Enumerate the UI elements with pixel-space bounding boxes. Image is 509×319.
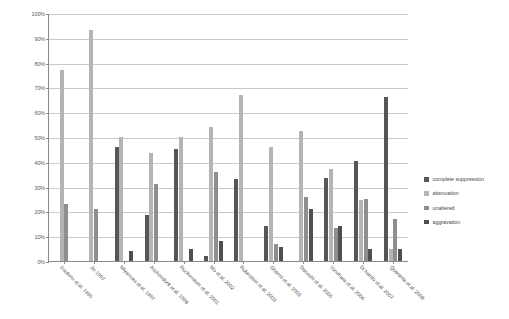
x-axis-labels: Soutiere et al. 1995Jin 1997Miyamoto et …	[48, 263, 408, 319]
legend-swatch-icon	[424, 177, 429, 182]
y-axis-tick-label: 0%	[37, 259, 45, 265]
bar	[239, 95, 243, 261]
bar-group	[109, 14, 139, 261]
x-axis-label-cell: Daneshi et al. 2005	[288, 263, 318, 319]
bar-group	[258, 14, 288, 261]
bar	[204, 256, 208, 261]
legend-label: attenuation	[433, 190, 459, 197]
x-axis-label-cell: Rubinstein et al. 2003	[228, 263, 258, 319]
legend-item[interactable]: complete suppression	[424, 176, 506, 183]
bar	[389, 249, 393, 261]
bar-group	[139, 14, 169, 261]
x-axis-label: Jin 1997	[89, 264, 107, 282]
bar	[174, 149, 178, 261]
y-axis-tick-label: 20%	[35, 209, 46, 215]
plot-area: 0%10%20%30%40%50%60%70%80%90%100%	[48, 14, 408, 262]
bar	[354, 161, 358, 261]
bar	[154, 184, 158, 261]
bar	[209, 127, 213, 261]
bar	[368, 249, 372, 261]
bar	[384, 97, 388, 261]
bar-group	[378, 14, 408, 261]
x-axis-label-cell: Yonehara et al. 2006	[318, 263, 348, 319]
bar	[64, 204, 68, 261]
legend-item[interactable]: unaltered	[424, 205, 506, 212]
bar-chart: 0%10%20%30%40%50%60%70%80%90%100% Soutie…	[0, 0, 509, 319]
bar-group	[318, 14, 348, 261]
bar	[149, 153, 153, 261]
bar	[89, 30, 93, 261]
bar-group	[288, 14, 318, 261]
legend-swatch-icon	[424, 206, 429, 211]
legend-item[interactable]: aggravation	[424, 219, 506, 226]
x-axis-label-cell: Aschendorff et al. 1998	[138, 263, 168, 319]
y-axis-tick-label: 50%	[35, 135, 46, 141]
bar-group	[199, 14, 229, 261]
y-axis-tick-label: 10%	[35, 234, 46, 240]
legend-item[interactable]: attenuation	[424, 190, 506, 197]
y-axis-tick-label: 40%	[35, 160, 46, 166]
x-axis-label-cell: Ruckenstein et al. 2001	[168, 263, 198, 319]
bar-group	[229, 14, 259, 261]
y-axis-tick-label: 30%	[35, 185, 46, 191]
x-axis-label: Quaranta et al. 2008	[389, 264, 426, 301]
legend-swatch-icon	[424, 220, 429, 225]
bar	[309, 209, 313, 261]
legend-label: aggravation	[433, 219, 461, 226]
x-axis-label-cell: Gharmi et al. 2003	[258, 263, 288, 319]
y-axis-tick-label: 100%	[32, 11, 45, 17]
bar	[304, 197, 308, 261]
legend-label: complete suppression	[433, 176, 484, 183]
bar	[94, 209, 98, 261]
chart-legend: complete suppressionattenuationunaltered…	[424, 176, 506, 233]
bar	[329, 169, 333, 261]
bar	[264, 226, 268, 261]
x-axis-label-cell: Quaranta et al. 2008	[378, 263, 408, 319]
bar	[393, 219, 397, 261]
x-axis-label-cell: Mo et al. 2002	[198, 263, 228, 319]
bar	[334, 228, 338, 261]
bar	[145, 215, 149, 261]
bar	[269, 147, 273, 261]
y-axis-tick-label: 90%	[35, 36, 46, 42]
bar	[398, 249, 402, 261]
legend-swatch-icon	[424, 191, 429, 196]
bar	[115, 147, 119, 261]
bar	[214, 172, 218, 261]
bar	[279, 247, 283, 261]
x-axis-label-cell: Miyamoto et al. 1997	[108, 263, 138, 319]
bar	[274, 244, 278, 261]
x-axis-label-cell: Jin 1997	[78, 263, 108, 319]
bar-group	[169, 14, 199, 261]
bar-groups	[49, 14, 408, 261]
bar	[338, 226, 342, 261]
bar	[189, 249, 193, 261]
y-axis-tick-label: 60%	[35, 110, 46, 116]
y-axis-tick-label: 70%	[35, 85, 46, 91]
bar	[359, 200, 363, 261]
bar	[219, 241, 223, 261]
y-axis-tick-label: 80%	[35, 61, 46, 67]
legend-label: unaltered	[433, 205, 455, 212]
bar	[119, 137, 123, 261]
bar-group	[348, 14, 378, 261]
bar	[129, 251, 133, 261]
bar	[60, 70, 64, 261]
bar-group	[79, 14, 109, 261]
bar	[234, 179, 238, 261]
bar	[364, 199, 368, 261]
bar	[179, 137, 183, 261]
bar	[299, 131, 303, 261]
bar-group	[49, 14, 79, 261]
x-axis-label-cell: Di Nardo et al. 2007	[348, 263, 378, 319]
bar	[324, 178, 328, 261]
x-axis-label-cell: Soutiere et al. 1995	[48, 263, 78, 319]
